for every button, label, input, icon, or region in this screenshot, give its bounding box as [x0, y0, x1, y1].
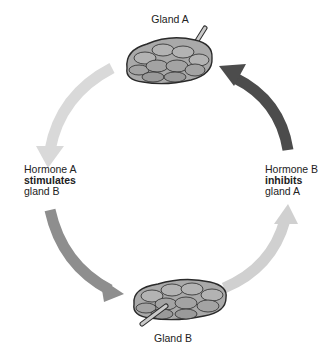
hormone-a-label: Hormone A stimulates gland B	[24, 164, 77, 197]
arrow-hormone-b-to-gland-a	[219, 64, 288, 150]
gland-b-label: Gland B	[140, 333, 206, 344]
arrow-gland-b-to-hormone-b	[224, 204, 298, 288]
hormone-b-label: Hormone B inhibits gland A	[265, 164, 318, 197]
gland-a-icon	[127, 28, 212, 84]
hormone-a-target: gland B	[24, 186, 77, 197]
gland-b-icon	[134, 279, 226, 324]
hormone-b-target: gland A	[265, 186, 318, 197]
gland-a-label: Gland A	[137, 14, 203, 25]
feedback-diagram: Gland A Gland B Hormone A stimulates gla…	[0, 0, 335, 351]
arrow-hormone-a-to-gland-b	[50, 210, 124, 302]
arrow-gland-a-to-hormone-a	[36, 68, 112, 168]
